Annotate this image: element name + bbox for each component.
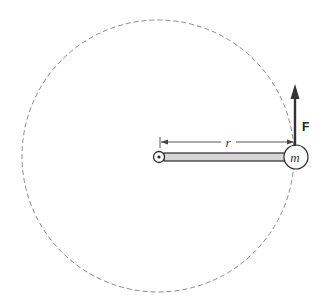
force-arrow-icon bbox=[291, 84, 300, 146]
rotation-diagram: m r F bbox=[0, 0, 325, 303]
rod bbox=[164, 153, 286, 161]
mass-label: m bbox=[290, 150, 299, 165]
force-label: F bbox=[302, 120, 309, 134]
pivot-icon bbox=[154, 152, 165, 163]
radius-label: r bbox=[225, 135, 231, 150]
